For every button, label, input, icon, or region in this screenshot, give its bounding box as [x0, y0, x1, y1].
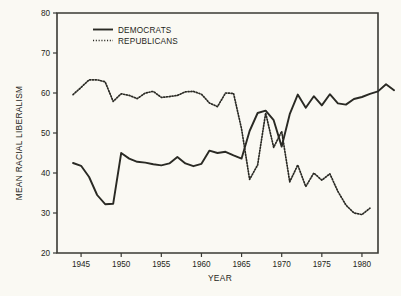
legend-label-democrats: DEMOCRATS: [118, 26, 172, 35]
x-tick-label: 1945: [72, 260, 91, 269]
x-tick-label: 1950: [112, 260, 131, 269]
y-tick-label: 50: [41, 129, 51, 138]
x-tick-label: 1970: [273, 260, 292, 269]
racial-liberalism-line-chart: 20304050607080 1945195019551960196519701…: [0, 0, 401, 296]
x-tick-label: 1960: [192, 260, 211, 269]
y-tick-label: 30: [41, 209, 51, 218]
x-tick-label: 1955: [152, 260, 171, 269]
y-tick-label: 80: [41, 9, 51, 18]
chart-background: [0, 0, 401, 296]
x-tick-label: 1965: [232, 260, 251, 269]
legend-label-republicans: REPUBLICANS: [118, 37, 178, 46]
x-tick-label: 1980: [353, 260, 372, 269]
x-tick-label: 1975: [313, 260, 332, 269]
x-axis-title: YEAR: [208, 273, 232, 283]
chart-figure: 20304050607080 1945195019551960196519701…: [0, 0, 401, 296]
y-tick-label: 40: [41, 169, 51, 178]
y-tick-label: 20: [41, 249, 51, 258]
y-tick-label: 60: [41, 89, 51, 98]
y-axis-title: MEAN RACIAL LIBERALISM: [14, 86, 24, 201]
y-tick-label: 70: [41, 49, 51, 58]
